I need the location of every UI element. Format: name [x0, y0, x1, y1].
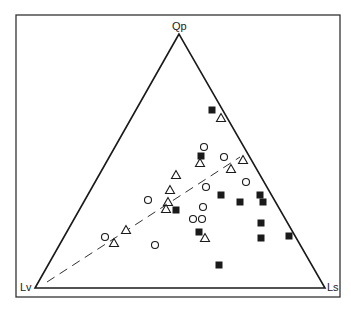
- triangle-marker: [172, 171, 181, 179]
- circle-marker: [200, 204, 207, 211]
- triangle-marker: [227, 165, 236, 173]
- square-marker: [218, 192, 225, 199]
- vertex-label-ls: Ls: [327, 282, 339, 293]
- triangle-marker: [217, 114, 226, 122]
- triangle-marker: [122, 226, 131, 234]
- square-marker: [198, 153, 205, 160]
- circle-marker: [201, 144, 208, 151]
- square-marker: [196, 229, 203, 236]
- circle-marker: [203, 184, 210, 191]
- square-marker: [257, 192, 264, 199]
- square-marker: [209, 107, 216, 114]
- square-marker: [258, 220, 265, 227]
- circle-marker: [243, 179, 250, 186]
- data-markers: [102, 107, 293, 269]
- circle-marker: [199, 216, 206, 223]
- triangle-marker: [196, 159, 205, 167]
- square-marker: [260, 199, 267, 206]
- vertex-label-lv: Lv: [20, 282, 32, 293]
- circle-marker: [152, 242, 159, 249]
- ternary-plot: [0, 0, 351, 310]
- triangle-marker: [110, 239, 119, 247]
- trend-line: [47, 157, 240, 282]
- circle-marker: [102, 234, 109, 241]
- circle-marker: [190, 216, 197, 223]
- circle-marker: [221, 154, 228, 161]
- square-marker: [216, 262, 223, 269]
- square-marker: [286, 233, 293, 240]
- square-marker: [258, 235, 265, 242]
- triangle-marker: [164, 198, 173, 206]
- triangle-marker: [166, 186, 175, 194]
- ternary-triangle: [35, 34, 325, 288]
- ternary-diagram: Qp Lv Ls: [0, 0, 351, 310]
- square-marker: [237, 199, 244, 206]
- circle-marker: [145, 197, 152, 204]
- vertex-label-qp: Qp: [172, 21, 187, 32]
- square-marker: [173, 207, 180, 214]
- triangle-marker: [239, 156, 248, 164]
- frame: [16, 15, 340, 297]
